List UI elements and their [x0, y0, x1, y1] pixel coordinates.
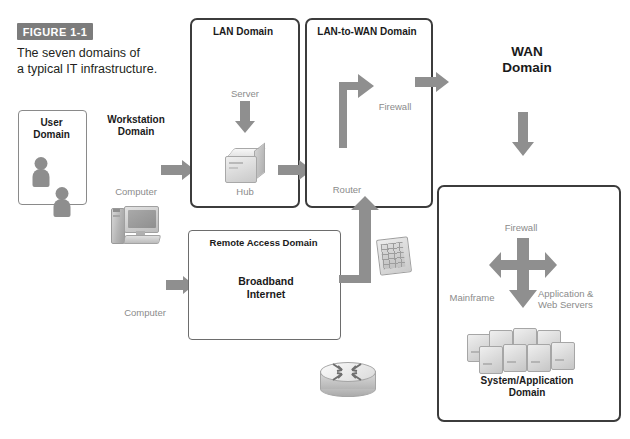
- broadband-internet-line2: Internet: [212, 288, 320, 301]
- two-people-icon-second: [53, 187, 70, 217]
- user-domain-title-line2: Domain: [18, 129, 85, 141]
- lan-to-wan-domain-title: LAN-to-WAN Domain: [305, 26, 429, 37]
- arrow-cross-four-way: [489, 238, 557, 308]
- arrow-server-to-hub: [235, 101, 255, 133]
- remote-computer-label: Computer: [114, 307, 176, 318]
- system-application-title-line2: Domain: [437, 387, 617, 399]
- workstation-domain-title-line1: Workstation: [92, 114, 180, 126]
- lanwan-router-label: Router: [317, 184, 377, 195]
- broadband-internet-line1: Broadband: [212, 275, 320, 288]
- user-domain-title: User Domain: [18, 117, 85, 141]
- workstation-domain-title-line2: Domain: [92, 126, 180, 138]
- broadband-internet-label: Broadband Internet: [212, 275, 320, 300]
- lan-server-icon: [225, 148, 265, 184]
- arrow-router-to-firewall: [330, 62, 382, 148]
- user-domain-title-line1: User: [18, 117, 85, 129]
- remote-access-domain-title: Remote Access Domain: [188, 237, 339, 248]
- system-application-domain-title: System/Application Domain: [437, 375, 617, 423]
- workstation-computer-label: Computer: [105, 186, 167, 197]
- system-firewall-label: Firewall: [487, 222, 555, 233]
- figure-badge: FIGURE 1-1: [17, 23, 93, 40]
- figure-caption-line2: a typical IT infrastructure.: [17, 62, 192, 78]
- workstation-domain-title: Workstation Domain: [92, 114, 180, 138]
- lan-server-label: Server: [212, 88, 278, 99]
- lan-hub-label: Hub: [212, 186, 278, 197]
- diagram-canvas: FIGURE 1-1 The seven domains of a typica…: [0, 0, 630, 439]
- system-application-title-line1: System/Application: [437, 375, 617, 387]
- lan-domain-title: LAN Domain: [190, 26, 296, 37]
- system-server-boxes: [467, 318, 597, 374]
- figure-caption: The seven domains of a typical IT infras…: [17, 46, 192, 77]
- arrow-wan-to-system: [512, 112, 534, 156]
- wan-domain-title-line2: Domain: [452, 60, 602, 76]
- arrow-remote-access-to-router: [331, 196, 389, 292]
- lanwan-router-icon: [320, 362, 374, 396]
- figure-caption-line1: The seven domains of: [17, 46, 192, 62]
- figure-badge-label: FIGURE 1-1: [23, 26, 88, 38]
- wan-domain-title: WAN Domain: [452, 44, 602, 76]
- workstation-computer-icon: [111, 204, 159, 244]
- two-people-icon: [32, 157, 49, 187]
- wan-domain-title-line1: WAN: [452, 44, 602, 60]
- arrow-firewall-to-wan: [415, 72, 449, 92]
